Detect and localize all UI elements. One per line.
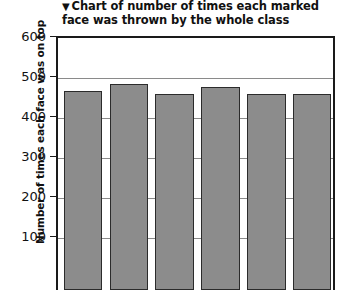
y-tick-label-200: 200 <box>2 190 46 203</box>
triangle-down-icon: ▼ <box>62 1 70 12</box>
bar-4 <box>201 87 240 290</box>
bar-2 <box>110 84 149 290</box>
y-tick-label-500: 500 <box>2 70 46 83</box>
y-tick-label-300: 300 <box>2 150 46 163</box>
bar-5 <box>247 94 286 290</box>
bars-layer <box>58 38 333 290</box>
bar-3 <box>155 94 194 290</box>
chart-screenshot: ▼Chart of number of times each marked fa… <box>0 0 342 290</box>
bar-1 <box>64 91 103 290</box>
plot-area <box>56 36 335 290</box>
y-axis-title: Number of times each face was on top <box>34 24 46 244</box>
y-tick-label-100: 100 <box>2 230 46 243</box>
chart-title-text: Chart of number of times each marked fac… <box>62 0 319 27</box>
y-tick-label-400: 400 <box>2 110 46 123</box>
y-tick-label-600: 600 <box>2 30 46 43</box>
chart-title: ▼Chart of number of times each marked fa… <box>62 0 340 27</box>
bar-6 <box>293 94 332 290</box>
